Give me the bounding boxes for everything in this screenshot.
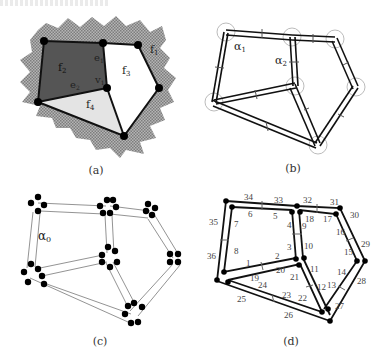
label-alpha2: α2 [275, 54, 287, 68]
panel-a-planar-map: f1 f2 f3 f4 e1 e2 v1 (a) [0, 0, 193, 181]
svg-text:29: 29 [361, 239, 371, 249]
panel-b-dart-graph: α1 α2 (b) [193, 0, 386, 181]
caption-c: (c) [80, 335, 120, 348]
svg-text:27: 27 [335, 301, 345, 311]
svg-text:36: 36 [207, 251, 217, 261]
dart-points [21, 194, 181, 326]
svg-text:6: 6 [248, 209, 253, 219]
svg-text:18: 18 [305, 214, 315, 224]
svg-text:5: 5 [273, 211, 278, 221]
svg-text:4: 4 [287, 220, 292, 230]
svg-text:10: 10 [304, 241, 314, 251]
svg-text:26: 26 [284, 310, 294, 320]
svg-text:31: 31 [330, 197, 339, 207]
svg-text:24: 24 [258, 280, 268, 290]
svg-text:13: 13 [327, 280, 337, 290]
svg-text:23: 23 [282, 290, 292, 300]
svg-text:1: 1 [246, 258, 251, 268]
caption-b: (b) [273, 162, 313, 175]
svg-text:15: 15 [344, 247, 354, 257]
svg-text:30: 30 [350, 210, 360, 220]
label-alpha1: α1 [234, 40, 246, 54]
svg-text:16: 16 [336, 227, 346, 237]
caption-a: (a) [76, 164, 116, 177]
svg-text:8: 8 [234, 246, 239, 256]
svg-text:32: 32 [303, 195, 312, 205]
caption-d: (d) [271, 335, 311, 348]
svg-text:11: 11 [310, 264, 319, 274]
svg-text:33: 33 [274, 195, 284, 205]
svg-text:25: 25 [237, 294, 247, 304]
panel-c-alpha0-darts: α0 (c) [0, 181, 193, 362]
svg-text:12: 12 [317, 282, 326, 292]
svg-text:20: 20 [276, 265, 286, 275]
panel-d-numbered-darts: 1 2 3 4 5 6 7 8 9 10 11 12 13 14 15 16 1… [193, 181, 386, 362]
svg-text:22: 22 [298, 293, 307, 303]
svg-text:21: 21 [290, 272, 299, 282]
vertex-arcs [205, 23, 365, 154]
svg-text:2: 2 [275, 251, 280, 261]
svg-text:14: 14 [337, 267, 347, 277]
label-alpha0: α0 [38, 229, 51, 244]
svg-text:34: 34 [244, 192, 254, 202]
svg-text:28: 28 [357, 276, 367, 286]
svg-text:35: 35 [209, 217, 219, 227]
svg-text:7: 7 [234, 219, 239, 229]
svg-text:17: 17 [323, 214, 333, 224]
svg-text:3: 3 [287, 242, 292, 252]
